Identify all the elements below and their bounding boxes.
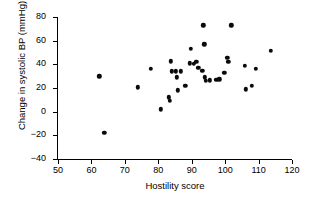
y-tick-mark (53, 112, 57, 113)
y-tick-mark (53, 88, 57, 89)
x-tick-label: 90 (180, 166, 204, 175)
data-point (249, 83, 253, 87)
data-point (176, 88, 180, 92)
y-tick-mark (53, 159, 57, 160)
data-point (202, 42, 206, 46)
x-tick-mark (91, 160, 92, 164)
data-point (242, 63, 246, 67)
data-point (179, 69, 183, 73)
data-point (222, 70, 226, 74)
data-point (226, 60, 230, 64)
x-tick-mark (259, 160, 260, 164)
y-axis-title: Change in systolic BP (mmHg) (16, 0, 27, 139)
x-tick-label: 70 (113, 166, 137, 175)
data-point (149, 67, 153, 71)
y-tick-mark (53, 17, 57, 18)
x-tick-label: 80 (146, 166, 170, 175)
data-point (136, 85, 140, 89)
x-axis-title: Hostility score (58, 180, 292, 191)
data-point (208, 78, 212, 82)
data-point (254, 67, 258, 71)
data-point (201, 23, 205, 27)
x-tick-mark (58, 160, 59, 164)
x-tick-mark (125, 160, 126, 164)
data-point (268, 49, 272, 53)
x-tick-mark (225, 160, 226, 164)
x-tick-label: 120 (280, 166, 304, 175)
data-point (192, 62, 196, 66)
data-point (169, 59, 173, 63)
x-tick-label: 60 (79, 166, 103, 175)
scatter-plot-figure: −40−20020406080 5060708090100110120 Chan… (0, 0, 318, 201)
data-point (200, 69, 204, 73)
y-tick-mark (53, 41, 57, 42)
x-tick-mark (158, 160, 159, 164)
x-tick-label: 50 (46, 166, 70, 175)
x-tick-mark (192, 160, 193, 164)
data-point (175, 75, 179, 79)
data-point (229, 23, 233, 27)
data-point (189, 47, 193, 51)
y-tick-mark (53, 135, 57, 136)
y-tick-mark (53, 64, 57, 65)
data-point (158, 107, 162, 111)
data-point (168, 99, 172, 103)
data-point (183, 83, 187, 87)
x-tick-label: 110 (247, 166, 271, 175)
data-point (97, 74, 101, 78)
x-tick-label: 100 (213, 166, 237, 175)
data-point (102, 131, 106, 135)
data-point (243, 87, 247, 91)
data-point (217, 77, 221, 81)
y-tick-label: −40 (20, 154, 46, 163)
x-tick-mark (292, 160, 293, 164)
plot-data-area (58, 17, 292, 160)
data-point (174, 69, 178, 73)
